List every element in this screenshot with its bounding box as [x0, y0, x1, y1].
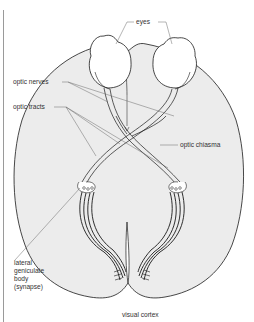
left-lateral-geniculate — [78, 182, 96, 193]
label-optic-tracts: optic tracts — [13, 103, 45, 111]
label-lateral-geniculate-body: lateral geniculate body (synapse) — [14, 259, 54, 291]
right-lateral-geniculate — [169, 182, 187, 193]
left-eye — [89, 35, 131, 89]
right-eye — [153, 38, 197, 89]
label-optic-chiasma: optic chiasma — [180, 141, 220, 149]
label-visual-cortex: visual cortex — [122, 311, 159, 319]
label-eyes: eyes — [136, 18, 150, 26]
label-optic-nerves: optic nerves — [13, 78, 49, 86]
